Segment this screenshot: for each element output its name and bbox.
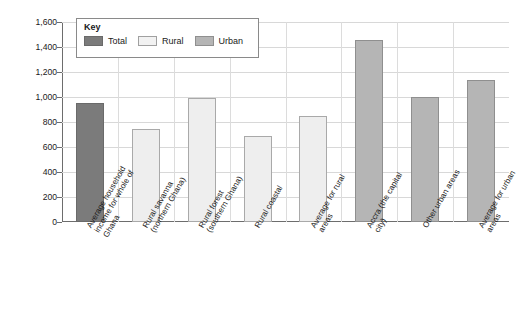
- y-axis-tick-labels: 02004006008001,0001,2001,4001,600: [0, 22, 57, 222]
- legend-label: Rural: [162, 36, 184, 46]
- legend-swatch: [84, 36, 103, 46]
- legend-swatch: [138, 36, 157, 46]
- legend-title: Key: [84, 22, 101, 32]
- legend-item: Rural: [138, 36, 184, 46]
- y-axis-tick: [57, 222, 62, 223]
- legend-items: TotalRuralUrban: [84, 36, 254, 46]
- y-axis-tick-label: 1,000: [35, 93, 57, 102]
- y-axis-tick-label: 400: [43, 168, 57, 177]
- x-axis-category-labels: Average household income for whole of Gh…: [62, 225, 509, 325]
- legend-item: Urban: [195, 36, 244, 46]
- category-separator: [286, 22, 287, 222]
- y-axis-tick-label: 1,400: [35, 43, 57, 52]
- y-axis-tick-label: 1,600: [35, 18, 57, 27]
- y-axis-tick-label: 1,200: [35, 68, 57, 77]
- legend-label: Total: [108, 36, 127, 46]
- legend-item: Total: [84, 36, 127, 46]
- y-axis-tick-label: 800: [43, 118, 57, 127]
- y-axis-tick-label: 200: [43, 193, 57, 202]
- page-bottom-edge: [0, 327, 513, 335]
- legend-swatch: [195, 36, 214, 46]
- y-axis-tick-label: 600: [43, 143, 57, 152]
- legend: Key TotalRuralUrban: [76, 18, 259, 58]
- category-separator: [453, 22, 454, 222]
- legend-label: Urban: [219, 36, 244, 46]
